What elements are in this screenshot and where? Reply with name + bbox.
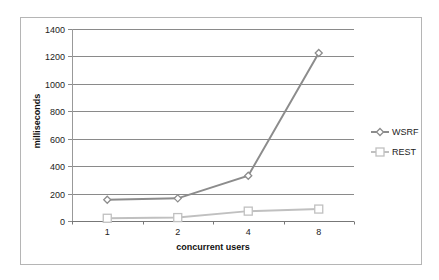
- square-marker: [376, 148, 384, 156]
- x-tick-label: 8: [316, 227, 321, 237]
- legend-label: WSRF: [392, 127, 419, 137]
- x-tick-label: 4: [246, 227, 251, 237]
- y-tick-label: 1400: [45, 25, 65, 35]
- y-tick-label: 1200: [45, 52, 65, 62]
- square-marker: [244, 207, 252, 215]
- y-axis-title: milliseconds: [32, 94, 42, 149]
- y-tick-label: 600: [50, 135, 65, 145]
- line-chart: 0200400600800100012001400 1248 concurren…: [0, 0, 439, 280]
- legend-label: REST: [392, 147, 417, 157]
- x-tick-label: 1: [105, 227, 110, 237]
- x-axis-title: concurrent users: [176, 242, 250, 252]
- y-tick-label: 0: [60, 217, 65, 227]
- x-tick-label: 2: [175, 227, 180, 237]
- y-tick-label: 800: [50, 107, 65, 117]
- square-marker: [174, 214, 182, 222]
- square-marker: [103, 214, 111, 222]
- y-tick-label: 400: [50, 162, 65, 172]
- y-tick-label: 1000: [45, 80, 65, 90]
- chart-frame: [21, 18, 422, 265]
- square-marker: [315, 205, 323, 213]
- y-tick-label: 200: [50, 190, 65, 200]
- legend-item-rest: REST: [371, 147, 417, 157]
